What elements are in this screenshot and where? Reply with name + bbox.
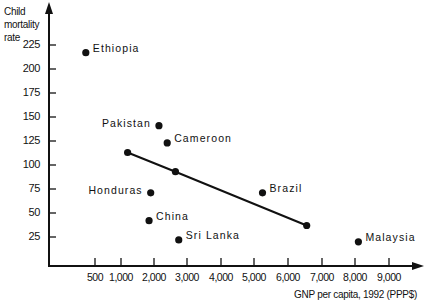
x-tick-label: 3,000 <box>175 271 199 283</box>
data-point <box>175 236 182 243</box>
chart-canvas <box>0 0 425 305</box>
data-point <box>355 238 362 245</box>
point-label: Cameroon <box>174 132 232 144</box>
point-label: Ethiopia <box>93 42 140 54</box>
y-tick-label: 50 <box>0 206 40 218</box>
x-tick-label: 6,000 <box>276 271 300 283</box>
x-axis-label: GNP per capita, 1992 (PPP$) <box>294 289 417 300</box>
x-tick-label: 8,000 <box>343 271 367 283</box>
x-tick-label: 500 <box>87 271 103 283</box>
y-tick-label: 200 <box>0 62 40 74</box>
point-label: Sri Lanka <box>186 229 240 241</box>
y-tick-label: 175 <box>0 86 40 98</box>
x-tick-label: 7,000 <box>310 271 334 283</box>
data-point <box>155 122 162 129</box>
y-tick-label: 75 <box>0 182 40 194</box>
y-tick-label: 100 <box>0 158 40 170</box>
data-point <box>145 217 152 224</box>
x-tick-label: 1,000 <box>109 271 133 283</box>
data-point <box>82 49 89 56</box>
point-label: Pakistan <box>102 117 151 129</box>
y-label-line: mortality <box>4 18 39 31</box>
y-tick-label: 150 <box>0 110 40 122</box>
point-label: China <box>156 210 189 222</box>
x-tick-label: 5,000 <box>242 271 266 283</box>
point-label: Malaysia <box>365 231 415 243</box>
data-point <box>259 189 266 196</box>
data-point <box>164 139 171 146</box>
y-tick-label: 25 <box>0 230 40 242</box>
y-tick-label: 225 <box>0 38 40 50</box>
y-tick-label: 125 <box>0 134 40 146</box>
x-tick-label: 2,000 <box>142 271 166 283</box>
point-label: Honduras <box>88 184 142 196</box>
x-tick-label: 4,000 <box>209 271 233 283</box>
x-tick-label: 9,000 <box>377 271 401 283</box>
data-points <box>82 49 362 245</box>
point-label: Brazil <box>270 182 303 194</box>
data-point <box>147 189 154 196</box>
y-label-line: Child <box>4 5 39 18</box>
